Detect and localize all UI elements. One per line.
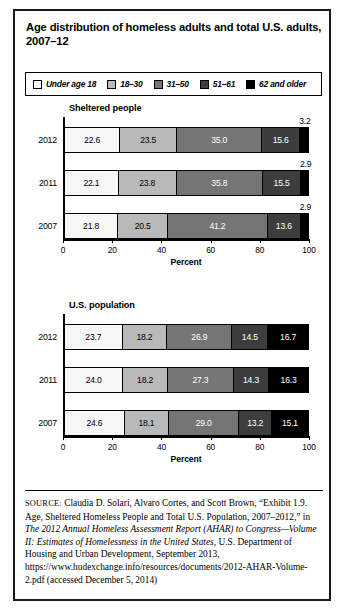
source-text-before: Claudia D. Solari, Alvaro Cortes, and Sc… [25, 498, 310, 522]
bar-segment-value: 24.0 [86, 375, 102, 385]
x-axis-title: Percent [63, 454, 309, 464]
bar-segment-value: 15.1 [282, 418, 298, 428]
bar-segment: 15.1 [272, 410, 309, 436]
bar-segment-value: 13.6 [276, 221, 292, 231]
x-axis-tick-label: 0 [61, 442, 65, 452]
bar-segment: 18.2 [123, 324, 168, 350]
bar-segment: 24.6 [64, 410, 125, 436]
x-axis-line [63, 239, 309, 241]
bar-segment-value: 29.0 [196, 418, 212, 428]
bar-segment-value: 18.2 [136, 332, 152, 342]
bar-segment: 18.2 [123, 367, 167, 393]
x-axis-tick [309, 239, 310, 243]
bar-segment [301, 170, 309, 196]
bar-segment: 15.5 [263, 170, 301, 196]
x-axis-tick-label: 60 [206, 442, 215, 452]
bar-segment-value: 21.8 [83, 221, 99, 231]
bar-segment: 23.8 [119, 170, 177, 196]
x-axis-tick-label: 80 [255, 442, 264, 452]
bar-segment: 23.7 [64, 324, 123, 350]
chart-row: 201223.718.226.914.516.7 [63, 324, 309, 350]
bar-segment: 41.2 [168, 213, 267, 239]
bar-segment-value: 23.8 [139, 178, 155, 188]
bar-segment: 24.0 [64, 367, 123, 393]
bar-segment-value: 23.7 [85, 332, 101, 342]
page-title: Age distribution of homeless adults and … [26, 20, 322, 48]
panel-title-uspopulation: U.S. population [69, 300, 135, 310]
chart-row: 20123.222.623.535.015.6 [63, 127, 309, 153]
legend-item: 18–30 [107, 79, 142, 89]
legend-swatch-icon [33, 80, 42, 89]
source-note: SOURCE: Claudia D. Solari, Alvaro Cortes… [25, 497, 323, 586]
x-axis-tick-label: 100 [302, 245, 315, 255]
category-label: 2007 [17, 410, 57, 436]
bar-segment-value: 23.5 [140, 135, 156, 145]
stacked-bar: 23.718.226.914.516.7 [64, 324, 309, 350]
legend-swatch-icon [246, 80, 255, 89]
bar-segment: 15.6 [262, 127, 300, 153]
category-label: 2007 [17, 213, 57, 239]
bar-segment: 29.0 [169, 410, 239, 436]
bar-segment-value-outside: 2.9 [300, 159, 311, 169]
stacked-bar: 24.618.129.013.215.1 [64, 410, 309, 436]
figure-frame: Age distribution of homeless adults and … [13, 9, 331, 601]
bar-segment-value-outside: 2.9 [300, 202, 311, 212]
bar-segment-value: 14.3 [243, 375, 259, 385]
x-axis-tick [211, 239, 212, 243]
x-axis-line [63, 436, 309, 438]
bar-segment [301, 213, 309, 239]
bar-segment: 27.3 [168, 367, 234, 393]
legend-item-label: 18–30 [120, 79, 142, 89]
legend-item: 62 and older [246, 79, 306, 89]
chart-row: 201124.018.227.314.316.3 [63, 367, 309, 393]
bar-segment: 21.8 [64, 213, 118, 239]
bar-segment: 26.9 [167, 324, 232, 350]
bar-segment-value: 16.7 [280, 332, 296, 342]
bar-segment: 22.1 [64, 170, 119, 196]
bar-segment-value: 41.2 [209, 221, 225, 231]
source-label: SOURCE: [25, 499, 62, 508]
chart-row: 20112.922.123.835.815.5 [63, 170, 309, 196]
bar-segment-value: 13.2 [247, 418, 263, 428]
x-axis-tick-label: 20 [108, 442, 117, 452]
stacked-bar: 24.018.227.314.316.3 [64, 367, 309, 393]
chart-row: 20072.921.820.541.213.6 [63, 213, 309, 239]
x-axis-tick [63, 436, 64, 440]
legend-item: 51–61 [200, 79, 235, 89]
x-axis-tick [112, 239, 113, 243]
category-label: 2011 [17, 367, 57, 393]
bar-segment-value-outside: 3.2 [299, 116, 310, 126]
bar-segment: 13.2 [239, 410, 272, 436]
legend-swatch-icon [154, 80, 163, 89]
bar-segment-value: 16.3 [281, 375, 297, 385]
bar-segment: 23.5 [120, 127, 177, 153]
source-divider [25, 490, 323, 491]
bar-segment: 16.3 [269, 367, 309, 393]
x-axis-tick [260, 239, 261, 243]
category-label: 2012 [17, 127, 57, 153]
chart-row: 200724.618.129.013.215.1 [63, 410, 309, 436]
bar-segment-value: 35.0 [211, 135, 227, 145]
x-axis-tick-label: 100 [302, 442, 315, 452]
plot-area-uspopulation: 020406080100Percent201223.718.226.914.51… [63, 314, 309, 460]
bar-segment: 18.1 [125, 410, 169, 436]
x-axis-tick [161, 436, 162, 440]
bar-segment-value: 35.8 [211, 178, 227, 188]
bar-segment: 14.3 [234, 367, 269, 393]
bar-segment-value: 15.6 [273, 135, 289, 145]
bar-segment: 35.0 [177, 127, 262, 153]
bar-segment: 16.7 [268, 324, 309, 350]
bar-segment-value: 27.3 [192, 375, 208, 385]
x-axis-tick [161, 239, 162, 243]
bar-segment-value: 15.5 [274, 178, 290, 188]
bar-segment-value: 18.1 [138, 418, 154, 428]
bar-segment-value: 26.9 [191, 332, 207, 342]
x-axis-tick-label: 60 [206, 245, 215, 255]
legend-item-label: 62 and older [259, 79, 306, 89]
bar-segment-value: 22.6 [84, 135, 100, 145]
x-axis-tick [309, 436, 310, 440]
bar-segment: 20.5 [118, 213, 168, 239]
x-axis-tick [211, 436, 212, 440]
stacked-bar: 22.123.835.815.5 [64, 170, 309, 196]
x-axis-tick [112, 436, 113, 440]
